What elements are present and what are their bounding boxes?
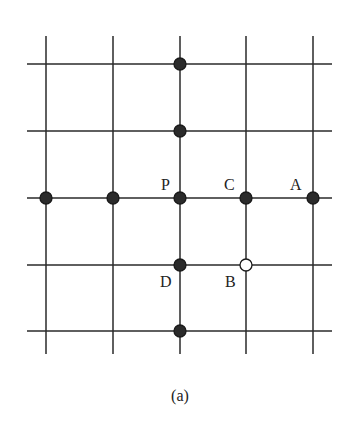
point-label-a: A (290, 176, 302, 193)
point-label-d: D (160, 273, 172, 290)
filled-point (174, 192, 186, 204)
filled-point (174, 259, 186, 271)
point-label-p: P (161, 176, 170, 193)
filled-point (107, 192, 119, 204)
figure-caption: (a) (171, 387, 189, 405)
open-point (240, 259, 252, 271)
point-label-c: C (224, 176, 235, 193)
filled-point (307, 192, 319, 204)
filled-point (40, 192, 52, 204)
filled-point (174, 125, 186, 137)
point-label-b: B (225, 273, 236, 290)
filled-point (174, 58, 186, 70)
lattice-diagram: PCADB (a) (0, 0, 351, 428)
filled-point (240, 192, 252, 204)
filled-point (174, 325, 186, 337)
